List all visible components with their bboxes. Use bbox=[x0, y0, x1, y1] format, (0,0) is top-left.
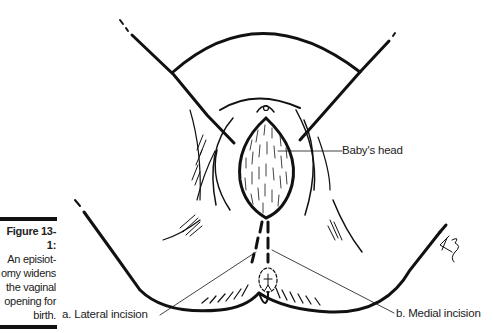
lateral-incision-line bbox=[252, 222, 262, 262]
left-leg-outline bbox=[75, 200, 80, 206]
babys-head-label: Baby's head bbox=[342, 144, 403, 156]
labia-outer bbox=[163, 110, 362, 252]
babys-head bbox=[240, 118, 294, 218]
episiotomy-illustration bbox=[0, 0, 493, 333]
medial-incision-leader bbox=[272, 250, 394, 313]
anus bbox=[259, 268, 277, 292]
right-leg-outline bbox=[259, 232, 440, 312]
lateral-incision-label: a. Lateral incision bbox=[62, 308, 148, 320]
abdomen-arc bbox=[173, 34, 360, 73]
medial-incision-label: b. Medial incision bbox=[396, 307, 481, 319]
right-thigh-outline bbox=[300, 33, 395, 140]
shading-right bbox=[328, 220, 342, 240]
left-thigh-outline bbox=[120, 20, 234, 143]
shading-left bbox=[180, 135, 206, 236]
clitoral-hood bbox=[257, 106, 274, 112]
artist-signature bbox=[440, 236, 459, 262]
